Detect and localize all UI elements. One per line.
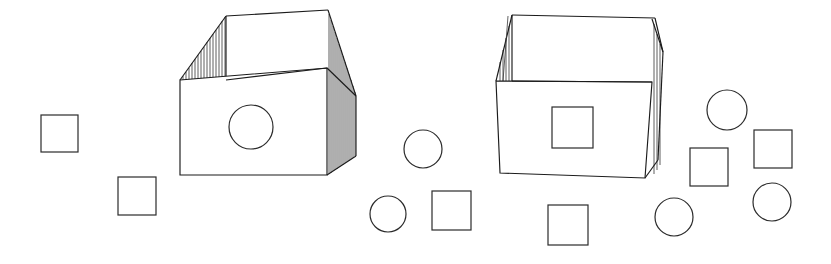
- line-drawing-svg: [0, 0, 831, 264]
- box-right-front-face: [496, 81, 652, 178]
- box-left-front-face: [180, 68, 327, 175]
- figure-canvas: Two open boxes with scattered squares an…: [0, 0, 831, 264]
